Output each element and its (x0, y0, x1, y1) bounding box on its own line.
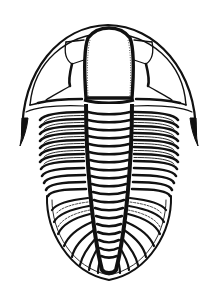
trilobite-illustration: trilobite line drawing (0, 0, 219, 295)
trilobite-drawing (0, 0, 219, 295)
glabella (84, 28, 134, 103)
